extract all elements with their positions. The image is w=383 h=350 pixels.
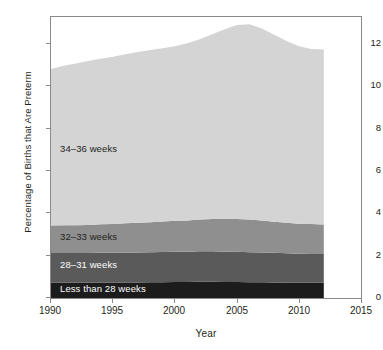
y-tick-mark-6 (46, 170, 50, 171)
y-axis-title: Percentage of Births that Are Preterm (21, 7, 35, 297)
x-tick-mark-1995 (112, 299, 113, 303)
series-label-34-36-weeks: 34–36 weeks (60, 143, 117, 154)
x-tick-mark-2005 (237, 299, 238, 303)
y-tick-mark-12 (46, 43, 50, 44)
x-tick-label-2005: 2005 (215, 305, 259, 317)
y-tick-mark-4 (46, 212, 50, 213)
x-tick-label-2010: 2010 (277, 305, 321, 317)
x-tick-mark-2010 (299, 299, 300, 303)
y-tick-label-4: 4 (347, 207, 381, 217)
y-tick-mark-8 (46, 128, 50, 129)
series-label-28-31-weeks: 28–31 weeks (60, 259, 117, 270)
x-tick-label-1995: 1995 (90, 305, 134, 317)
plot-area (50, 16, 362, 299)
x-tick-label-2000: 2000 (152, 305, 196, 317)
x-tick-label-2015: 2015 (339, 305, 383, 317)
area-series-svg (51, 17, 361, 298)
x-tick-mark-1990 (50, 299, 51, 303)
y-tick-label-6: 6 (347, 165, 381, 175)
area-band-34-36-weeks (51, 24, 324, 225)
series-label-less-than-28-weeks: Less than 28 weeks (60, 283, 146, 294)
y-tick-mark-2 (46, 255, 50, 256)
x-tick-mark-2000 (174, 299, 175, 303)
x-axis-title: Year (50, 328, 362, 339)
series-label-32-33-weeks: 32–33 weeks (60, 231, 117, 242)
y-tick-label-12: 12 (347, 38, 381, 48)
y-tick-label-10: 10 (347, 80, 381, 90)
x-tick-mark-2015 (361, 299, 362, 303)
y-tick-label-0: 0 (347, 292, 381, 302)
y-tick-mark-0 (46, 297, 50, 298)
y-tick-label-2: 2 (347, 250, 381, 260)
x-tick-label-1990: 1990 (28, 305, 72, 317)
y-tick-mark-10 (46, 85, 50, 86)
y-tick-label-8: 8 (347, 123, 381, 133)
